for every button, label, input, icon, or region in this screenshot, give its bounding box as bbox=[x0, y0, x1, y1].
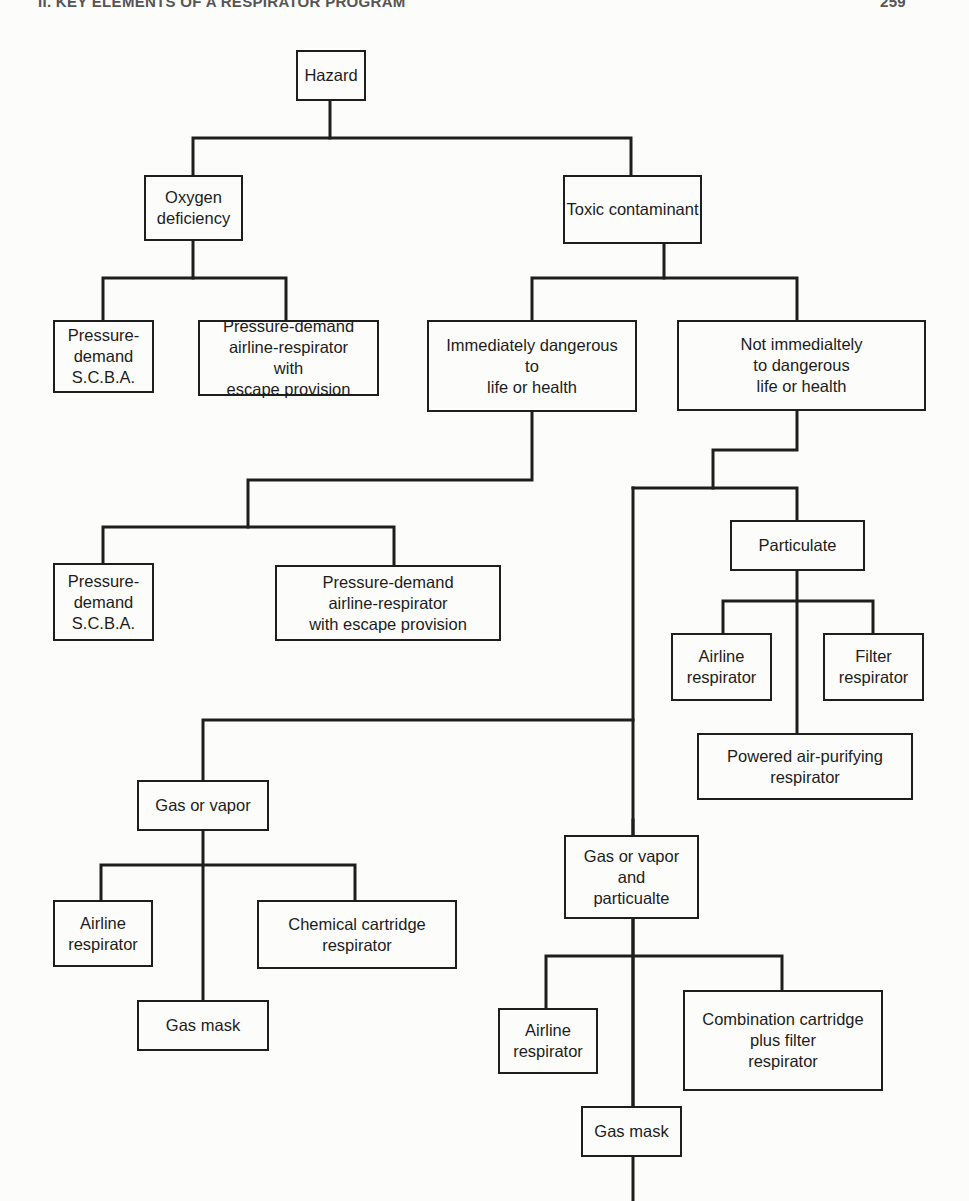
node-gvp-airline: Airline respirator bbox=[498, 1008, 598, 1074]
node-toxic-contaminant: Toxic contaminant bbox=[563, 175, 702, 244]
node-gas-vapor-airline: Airline respirator bbox=[53, 900, 153, 967]
node-gas-vapor-gasmask: Gas mask bbox=[137, 1000, 269, 1051]
node-particulate-airline: Airline respirator bbox=[671, 633, 772, 701]
node-idlh-scba: Pressure- demand S.C.B.A. bbox=[53, 563, 154, 641]
node-gvp-gasmask: Gas mask bbox=[581, 1106, 682, 1157]
node-idlh-airline: Pressure-demand airline-respirator with … bbox=[275, 565, 501, 641]
node-particulate-papr: Powered air-purifying respirator bbox=[697, 733, 913, 800]
node-not-idlh: Not immedialtely to dangerous life or he… bbox=[677, 320, 926, 411]
node-o2-scba: Pressure- demand S.C.B.A. bbox=[53, 320, 154, 393]
node-gvp-combination: Combination cartridge plus filter respir… bbox=[683, 990, 883, 1091]
node-gas-vapor: Gas or vapor bbox=[137, 780, 269, 831]
node-gvp: Gas or vapor and particualte bbox=[564, 835, 699, 919]
node-idlh: Immediately dangerous to life or health bbox=[427, 320, 637, 412]
node-particulate: Particulate bbox=[730, 520, 865, 571]
node-hazard: Hazard bbox=[296, 50, 366, 101]
node-o2-airline: Pressure-demand airline-respirator with … bbox=[198, 320, 379, 396]
node-particulate-filter: Filter respirator bbox=[823, 633, 924, 701]
node-gas-vapor-chemical: Chemical cartridge respirator bbox=[257, 900, 457, 969]
node-oxygen-deficiency: Oxygen deficiency bbox=[144, 175, 243, 241]
